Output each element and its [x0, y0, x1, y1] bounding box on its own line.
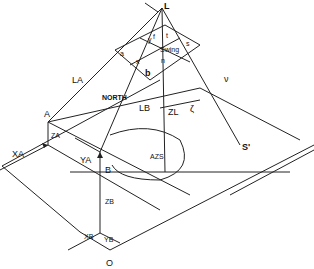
ya-line	[48, 145, 160, 210]
label-n: n	[161, 57, 165, 64]
label-nu: ν	[224, 75, 229, 84]
label-a: a	[120, 50, 124, 57]
label-zeta: ζ	[190, 105, 194, 114]
ray-zl	[162, 8, 165, 172]
label-ZB: ZB	[105, 198, 114, 205]
optical-axis-ext	[145, 3, 158, 12]
label-b: b	[145, 69, 151, 78]
datum-plane-edge-top	[2, 80, 160, 166]
label-north: NORTH	[102, 94, 127, 101]
label-ZL: ZL	[168, 108, 179, 117]
label-YA: YA	[80, 156, 91, 165]
b-connector	[75, 138, 100, 152]
label-O: O	[106, 259, 113, 268]
datum-plane-edge-left	[2, 166, 80, 232]
label-XB: XB	[84, 233, 93, 240]
label-f: f	[153, 33, 155, 40]
label-s: s	[186, 40, 190, 47]
label-XA: XA	[12, 150, 24, 159]
label-YB: YB	[104, 236, 113, 243]
plane-line-b	[48, 122, 190, 195]
ray-lb	[100, 8, 162, 152]
label-A: A	[44, 110, 50, 119]
plane-line-c	[200, 88, 300, 140]
datum-plane-edge-bottom	[110, 145, 314, 250]
label-t: t	[166, 32, 168, 39]
label-azs: AZS	[150, 153, 164, 160]
label-B: B	[105, 166, 111, 175]
diagram-lines	[0, 0, 314, 269]
label-swing: Swing	[160, 46, 179, 53]
diagram-canvas: L a s x y f t Swing n b LA LB ZL ζ ν NOR…	[0, 0, 314, 269]
label-ZA: ZA	[51, 132, 60, 139]
arrow-head-b	[97, 152, 103, 158]
label-LB: LB	[139, 104, 150, 113]
label-LA: LA	[72, 76, 83, 85]
label-y: y	[148, 36, 152, 43]
label-L: L	[164, 2, 170, 11]
zeta-arrow	[160, 100, 200, 108]
label-S-prime: S'	[242, 143, 250, 152]
label-x: x	[136, 58, 140, 65]
